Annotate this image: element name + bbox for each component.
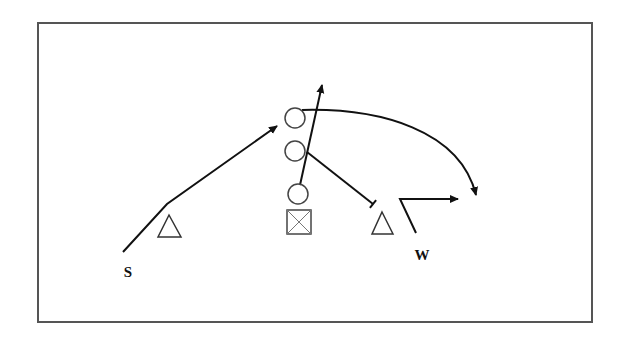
curve-route [302, 110, 476, 195]
label-s: S [124, 265, 132, 280]
defender-right-triangle-icon [372, 212, 393, 234]
block-route [307, 152, 373, 204]
w-route [400, 199, 458, 233]
vertical-route [300, 85, 322, 185]
play-diagram [0, 0, 622, 337]
label-w: W [415, 248, 430, 263]
offense-player-2-circle-icon [285, 141, 305, 161]
s-route [123, 126, 277, 252]
offense-layer [285, 108, 311, 234]
defense-layer [158, 212, 393, 237]
diagram-frame [38, 23, 592, 322]
defender-left-triangle-icon [158, 215, 181, 237]
center-box-icon [287, 210, 311, 234]
offense-player-1-circle-icon [285, 108, 305, 128]
offense-player-3-circle-icon [288, 184, 308, 204]
